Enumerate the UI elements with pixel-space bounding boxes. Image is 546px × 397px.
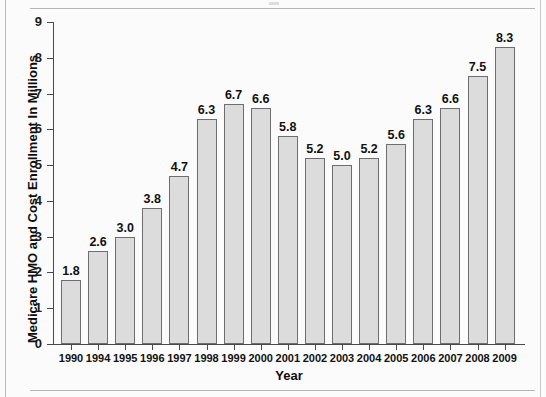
bar: 6.6	[440, 108, 460, 344]
bar: 6.3	[197, 119, 217, 344]
bar-value-label: 5.8	[279, 120, 296, 134]
y-axis-tick: 1	[47, 308, 53, 309]
y-axis-tick: 8	[47, 58, 53, 59]
bar-value-label: 7.5	[469, 60, 486, 74]
x-axis-tick	[423, 344, 424, 350]
bar-value-label: 5.2	[306, 142, 323, 156]
bar: 6.7	[224, 104, 244, 344]
bar: 8.3	[495, 47, 515, 344]
bar-value-label: 6.6	[252, 92, 269, 106]
x-axis-tick	[369, 344, 370, 350]
bar-value-label: 8.3	[496, 31, 513, 45]
bar: 5.2	[359, 158, 379, 344]
x-axis-tick-label: 1994	[86, 352, 110, 365]
y-axis-tick-label: 4	[35, 193, 42, 208]
x-axis-title: Year	[53, 368, 525, 383]
bar-value-label: 6.3	[415, 103, 432, 117]
x-axis-tick-label: 1998	[194, 352, 218, 365]
bar-value-label: 6.6	[442, 92, 459, 106]
x-axis-tick	[207, 344, 208, 350]
bar: 5.0	[332, 165, 352, 344]
x-axis-tick-label: 1996	[140, 352, 164, 365]
bar: 3.8	[142, 208, 162, 344]
y-axis-tick: 5	[47, 165, 53, 166]
bar-value-label: 5.0	[333, 149, 350, 163]
x-axis-tick	[71, 344, 72, 350]
bar: 4.7	[169, 176, 189, 344]
x-axis-tick	[342, 344, 343, 350]
x-axis-tick	[478, 344, 479, 350]
y-axis-tick-label: 6	[35, 121, 42, 136]
y-axis-tick-label: 5	[35, 157, 42, 172]
bar-value-label: 6.3	[198, 103, 215, 117]
bar-value-label: 3.8	[144, 192, 161, 206]
bar-value-label: 1.8	[62, 264, 79, 278]
bar: 1.8	[61, 280, 81, 344]
y-axis-tick-label: 7	[35, 86, 42, 101]
y-axis-tick-label: 0	[35, 336, 42, 351]
bar-value-label: 5.6	[387, 128, 404, 142]
x-axis-tick	[98, 344, 99, 350]
x-axis-tick-label: 1995	[113, 352, 137, 365]
x-axis-tick-label: 1999	[221, 352, 245, 365]
bar: 5.8	[278, 136, 298, 344]
x-axis-tick-label: 1990	[59, 352, 83, 365]
x-axis-tick-label: 1997	[167, 352, 191, 365]
page: Medicare HMO and Cost Enrollment In Mill…	[0, 0, 546, 397]
bar-chart: Medicare HMO and Cost Enrollment In Mill…	[0, 0, 546, 397]
x-axis-tick	[450, 344, 451, 350]
y-axis-tick-label: 9	[35, 14, 42, 29]
bar-value-label: 5.2	[360, 142, 377, 156]
bar: 2.6	[88, 251, 108, 344]
y-axis-tick: 6	[47, 129, 53, 130]
x-axis-tick-label: 2003	[330, 352, 354, 365]
y-axis-tick-label: 3	[35, 229, 42, 244]
x-axis-tick-label: 2009	[492, 352, 516, 365]
x-axis-tick	[234, 344, 235, 350]
y-axis-tick: 4	[47, 201, 53, 202]
x-axis-tick	[125, 344, 126, 350]
x-axis-tick	[505, 344, 506, 350]
bar: 5.6	[386, 144, 406, 344]
bar-value-label: 2.6	[89, 235, 106, 249]
x-axis-tick-label: 2004	[357, 352, 381, 365]
x-axis-tick-label: 2007	[438, 352, 462, 365]
x-axis-line	[53, 344, 525, 345]
y-axis-tick-label: 8	[35, 50, 42, 65]
x-axis-tick	[179, 344, 180, 350]
x-axis-tick	[152, 344, 153, 350]
bar: 7.5	[468, 76, 488, 344]
x-axis-tick	[396, 344, 397, 350]
y-axis-tick: 3	[47, 237, 53, 238]
x-axis-tick-label: 2002	[303, 352, 327, 365]
x-axis-tick	[315, 344, 316, 350]
bar: 6.6	[251, 108, 271, 344]
y-axis-tick-label: 2	[35, 264, 42, 279]
x-axis-tick-label: 2005	[384, 352, 408, 365]
x-axis-tick-label: 2001	[276, 352, 300, 365]
x-axis-tick	[261, 344, 262, 350]
bar: 3.0	[115, 237, 135, 344]
x-axis-tick	[288, 344, 289, 350]
y-axis-tick: 9	[47, 22, 53, 23]
bar: 5.2	[305, 158, 325, 344]
x-axis-tick-label: 2008	[465, 352, 489, 365]
bar-value-label: 4.7	[171, 160, 188, 174]
y-axis-tick-label: 1	[35, 300, 42, 315]
bar: 6.3	[413, 119, 433, 344]
bar-value-label: 3.0	[116, 221, 133, 235]
x-axis-tick-label: 2006	[411, 352, 435, 365]
y-axis-tick: 7	[47, 94, 53, 95]
y-axis-line	[53, 22, 54, 345]
y-axis-tick: 0	[47, 344, 53, 345]
x-axis-tick-label: 2000	[248, 352, 272, 365]
y-axis-tick: 2	[47, 272, 53, 273]
bar-value-label: 6.7	[225, 88, 242, 102]
